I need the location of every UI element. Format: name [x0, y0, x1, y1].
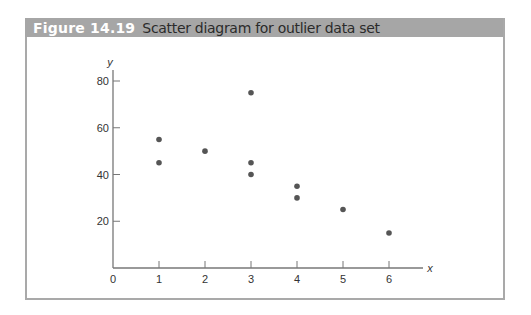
x-tick-label: 1	[156, 273, 162, 285]
x-tick-label: 3	[248, 273, 254, 285]
y-tick-label: 60	[97, 122, 109, 134]
data-point	[340, 207, 346, 213]
data-point	[156, 160, 162, 166]
y-tick-label: 20	[97, 215, 109, 227]
data-point	[294, 183, 300, 189]
y-tick-label: 40	[97, 169, 109, 181]
x-tick-label: 6	[386, 273, 392, 285]
data-point	[156, 137, 162, 143]
data-point	[294, 195, 300, 201]
data-point	[248, 90, 254, 96]
data-point	[386, 230, 392, 236]
y-axis-label: y	[106, 56, 114, 68]
data-point	[202, 148, 208, 154]
data-points	[156, 90, 392, 236]
x-tick-label: 4	[294, 273, 300, 285]
x-tick-label: 0	[110, 273, 116, 285]
x-tick-label: 2	[202, 273, 208, 285]
data-point	[248, 160, 254, 166]
x-axis-label: x	[426, 262, 433, 274]
axes: yx204060800123456	[97, 56, 434, 285]
scatter-chart: yx204060800123456	[0, 0, 531, 315]
y-tick-label: 80	[97, 75, 109, 87]
data-point	[248, 172, 254, 178]
x-tick-label: 5	[340, 273, 346, 285]
